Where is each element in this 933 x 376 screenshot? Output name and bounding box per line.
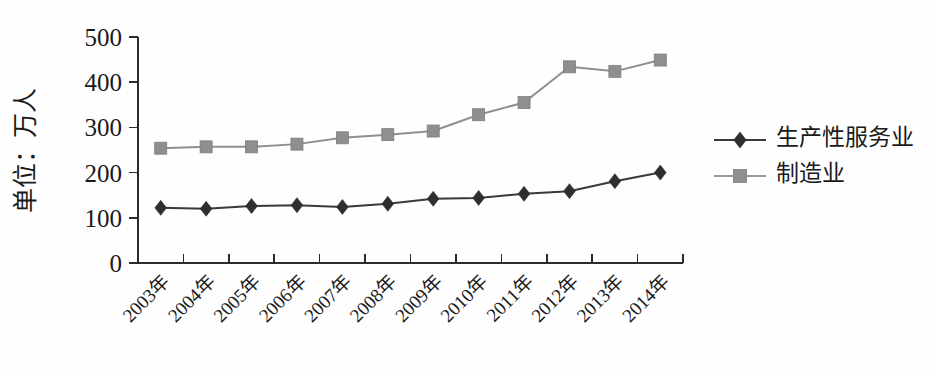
square-marker[interactable] [427, 125, 439, 137]
square-marker[interactable] [291, 138, 303, 150]
line-chart: 0100200300400500 单位：万人 2003年2004年2005年20… [0, 0, 933, 376]
x-tick-label: 2004年 [164, 271, 219, 326]
y-tick-label: 0 [110, 250, 123, 277]
x-tick-label: 2003年 [118, 271, 173, 326]
x-tick-label: 2011年 [482, 271, 537, 326]
series-1 [155, 165, 666, 216]
diamond-marker[interactable] [246, 199, 258, 214]
diamond-marker[interactable] [200, 201, 212, 216]
legend-item-2[interactable]: 制造业 [714, 161, 845, 186]
x-tick-label: 2009年 [391, 271, 446, 326]
square-marker[interactable] [654, 54, 666, 66]
y-tick-label: 400 [85, 69, 123, 96]
diamond-marker[interactable] [654, 165, 666, 180]
series-plot-area [155, 54, 667, 216]
square-marker[interactable] [473, 109, 485, 121]
x-tick-label: 2007年 [300, 271, 355, 326]
diamond-marker[interactable] [473, 190, 485, 205]
x-tick-label: 2006年 [255, 271, 310, 326]
x-tick-label: 2013年 [573, 271, 628, 326]
diamond-marker[interactable] [564, 184, 576, 199]
square-marker[interactable] [518, 97, 530, 109]
y-tick-label: 100 [85, 205, 123, 232]
y-tick-label: 300 [85, 114, 123, 141]
square-marker [734, 170, 747, 183]
y-axis-title-text: 单位：万人 [12, 88, 39, 213]
chart-container: 0100200300400500 单位：万人 2003年2004年2005年20… [0, 0, 933, 376]
diamond-marker[interactable] [291, 198, 303, 213]
x-tick-label: 2012年 [527, 271, 582, 326]
diamond-marker [734, 132, 746, 148]
legend-label: 制造业 [776, 161, 845, 186]
square-marker[interactable] [246, 141, 258, 153]
diamond-marker[interactable] [609, 174, 621, 189]
diamond-marker[interactable] [337, 199, 349, 214]
square-marker[interactable] [563, 61, 575, 73]
diamond-marker[interactable] [427, 191, 439, 206]
chart-legend: 生产性服务业制造业 [714, 125, 914, 186]
legend-label: 生产性服务业 [776, 125, 914, 150]
x-tick-label: 2010年 [436, 271, 491, 326]
series-2 [155, 54, 667, 154]
diamond-marker[interactable] [382, 196, 394, 211]
square-marker[interactable] [609, 65, 621, 77]
square-marker[interactable] [155, 142, 167, 154]
y-axis: 0100200300400500 [85, 24, 139, 277]
x-tick-label: 2014年 [618, 271, 673, 326]
square-marker[interactable] [336, 132, 348, 144]
y-tick-label: 500 [85, 24, 123, 51]
x-axis [138, 254, 683, 263]
x-tick-label: 2005年 [209, 271, 264, 326]
series-line-1 [161, 173, 661, 209]
legend-item-1[interactable]: 生产性服务业 [714, 125, 914, 150]
y-tick-label: 200 [85, 160, 123, 187]
x-tick-label: 2008年 [345, 271, 400, 326]
square-marker[interactable] [200, 141, 212, 153]
x-axis-tick-labels: 2003年2004年2005年2006年2007年2008年2009年2010年… [118, 271, 673, 326]
y-axis-title: 单位：万人 [12, 88, 39, 213]
square-marker[interactable] [382, 129, 394, 141]
diamond-marker[interactable] [518, 186, 530, 201]
diamond-marker[interactable] [155, 200, 167, 215]
series-line-2 [161, 60, 661, 148]
